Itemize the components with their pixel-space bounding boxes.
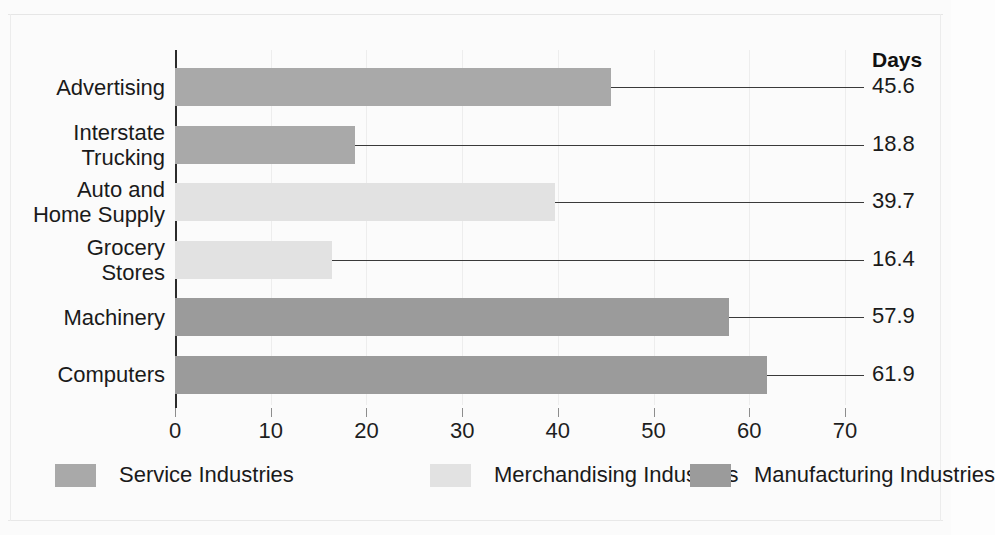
x-axis-tick-label: 60 (719, 418, 779, 444)
x-axis-tick-label: 50 (624, 418, 684, 444)
category-label: Machinery (64, 305, 165, 330)
leader-line (355, 145, 864, 146)
value-label: 45.6 (872, 73, 915, 99)
legend-swatch (430, 464, 471, 487)
category-label: Interstate Trucking (73, 120, 165, 170)
legend-item[interactable]: Manufacturing Industries (690, 462, 995, 488)
category-label: Grocery Stores (87, 235, 165, 285)
gridline (654, 50, 655, 405)
x-axis-tick-label: 30 (432, 418, 492, 444)
days-header: Days (872, 48, 922, 72)
leader-line (767, 375, 864, 376)
leader-line (729, 317, 864, 318)
legend-label: Manufacturing Industries (754, 462, 995, 488)
x-axis-tick (175, 408, 176, 417)
gridline (749, 50, 750, 405)
x-axis-tick-label: 20 (336, 418, 396, 444)
page-border-top (8, 14, 943, 15)
legend: Service IndustriesMerchandising Industri… (0, 462, 951, 502)
category-label: Advertising (56, 75, 165, 100)
leader-line (332, 260, 864, 261)
bar (175, 241, 332, 279)
x-axis-tick-label: 70 (815, 418, 875, 444)
value-label: 18.8 (872, 131, 915, 157)
bar (175, 68, 611, 106)
x-axis-tick (654, 408, 655, 417)
x-axis-tick (749, 408, 750, 417)
legend-item[interactable]: Service Industries (55, 462, 294, 488)
leader-line (555, 202, 864, 203)
page-border-left (10, 14, 11, 521)
x-axis-tick (462, 408, 463, 417)
legend-label: Service Industries (119, 462, 294, 488)
page-border-right (940, 14, 941, 521)
legend-swatch (55, 464, 96, 487)
x-axis-tick-label: 40 (528, 418, 588, 444)
bar (175, 126, 355, 164)
value-label: 61.9 (872, 361, 915, 387)
gridline (845, 50, 846, 405)
bar (175, 183, 555, 221)
value-label: 57.9 (872, 303, 915, 329)
category-label: Auto and Home Supply (33, 177, 165, 227)
value-label: 39.7 (872, 188, 915, 214)
bar (175, 356, 767, 394)
category-label: Computers (57, 362, 165, 387)
value-label: 16.4 (872, 246, 915, 272)
x-axis-tick (845, 408, 846, 417)
x-axis-tick (271, 408, 272, 417)
x-axis-tick (366, 408, 367, 417)
legend-swatch (690, 464, 731, 487)
x-axis-tick-label: 10 (241, 418, 301, 444)
leader-line (611, 87, 864, 88)
bar (175, 298, 729, 336)
x-axis-tick-label: 0 (145, 418, 205, 444)
x-axis-tick (558, 408, 559, 417)
page-border-bottom (8, 520, 943, 521)
